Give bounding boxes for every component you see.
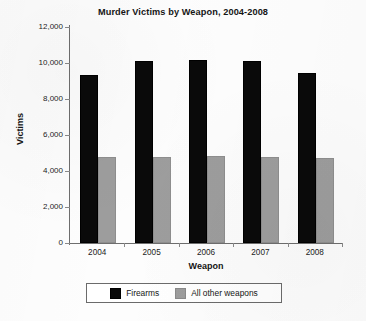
bar-group — [135, 27, 171, 243]
x-tick-mark — [342, 243, 343, 247]
plot-area — [70, 27, 342, 243]
y-tick-label-wrap: 2,000 — [17, 202, 63, 212]
x-axis-line — [69, 243, 343, 244]
y-tick-label-wrap: 8,000 — [17, 94, 63, 104]
x-axis-title: Weapon — [70, 261, 342, 271]
bar — [261, 157, 279, 243]
x-tick-label: 2007 — [238, 248, 282, 257]
x-tick-mark — [179, 243, 180, 247]
x-tick-label: 2005 — [130, 248, 174, 257]
bar — [80, 75, 98, 243]
bar-group — [243, 27, 279, 243]
y-tick-label-wrap: 4,000 — [17, 166, 63, 176]
y-tick-label-wrap: 10,000 — [17, 58, 63, 68]
bar — [207, 156, 225, 243]
y-tick-mark — [65, 243, 70, 244]
y-tick-label-wrap: 6,000 — [17, 130, 63, 140]
legend-entry: All other weapons — [175, 288, 258, 299]
x-tick-mark — [288, 243, 289, 247]
chart-page: Murder Victims by Weapon, 2004-2008 Vict… — [0, 0, 366, 321]
bar — [153, 157, 171, 243]
chart-legend: FirearmsAll other weapons — [86, 283, 282, 303]
y-tick-label: 6,000 — [21, 130, 63, 139]
y-tick-label: 0 — [21, 238, 63, 247]
legend-label: All other weapons — [191, 288, 258, 298]
bar — [135, 61, 153, 243]
bar — [189, 60, 207, 243]
bar-group — [298, 27, 334, 243]
bar — [243, 61, 261, 243]
x-tick-mark — [124, 243, 125, 247]
x-tick-label: 2004 — [75, 248, 119, 257]
bar — [298, 73, 316, 243]
bar-group — [80, 27, 116, 243]
x-tick-label: 2008 — [293, 248, 337, 257]
x-tick-mark — [233, 243, 234, 247]
y-tick-label: 8,000 — [21, 94, 63, 103]
legend-swatch-icon — [110, 288, 121, 299]
y-tick-label: 10,000 — [21, 58, 63, 67]
y-tick-label-wrap: 0 — [17, 238, 63, 248]
legend-entry: Firearms — [110, 288, 159, 299]
y-tick-label: 12,000 — [21, 22, 63, 31]
bar-group — [189, 27, 225, 243]
y-tick-label: 4,000 — [21, 166, 63, 175]
legend-label: Firearms — [126, 288, 159, 298]
y-tick-label: 2,000 — [21, 202, 63, 211]
bar — [316, 158, 334, 244]
x-tick-label: 2006 — [184, 248, 228, 257]
bar — [98, 157, 116, 243]
y-tick-label-wrap: 12,000 — [17, 22, 63, 32]
legend-swatch-icon — [175, 288, 186, 299]
chart-title: Murder Victims by Weapon, 2004-2008 — [0, 7, 366, 17]
